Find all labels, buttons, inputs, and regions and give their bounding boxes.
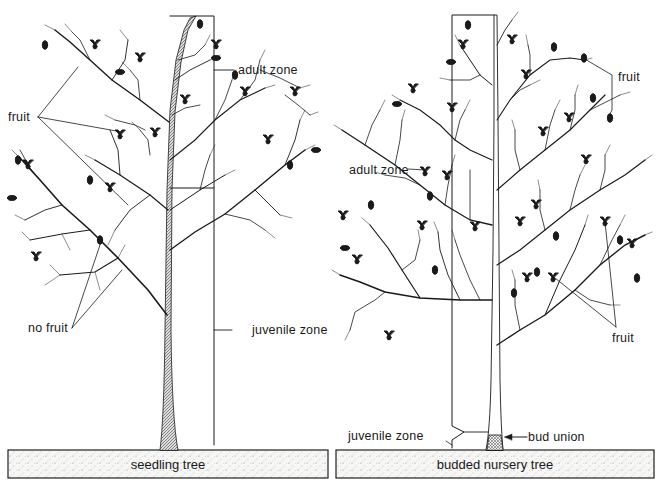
trunk-seedling <box>160 16 196 450</box>
label-juvenile-zone-seedling: juvenile zone <box>252 324 328 337</box>
trunk-budded <box>486 15 503 450</box>
label-seedling-tree: seedling tree <box>8 458 328 471</box>
label-budded-nursery-tree: budded nursery tree <box>336 458 654 471</box>
diagram-canvas: adult zone fruit no fruit juvenile zone … <box>0 0 658 482</box>
label-adult-zone-seedling: adult zone <box>238 64 298 77</box>
seedling-tree <box>8 16 329 478</box>
budded-tree <box>332 12 654 478</box>
tree-diagram-svg <box>0 0 658 482</box>
label-fruit-seedling: fruit <box>8 111 30 124</box>
label-fruit-bottom-budded: fruit <box>612 332 634 345</box>
bud-union-graft <box>487 435 503 450</box>
label-fruit-top-budded: fruit <box>618 71 640 84</box>
label-no-fruit: no fruit <box>28 322 68 335</box>
label-juvenile-zone-budded: juvenile zone <box>348 430 424 443</box>
label-adult-zone-budded: adult zone <box>349 164 409 177</box>
label-bud-union: bud union <box>528 431 585 444</box>
